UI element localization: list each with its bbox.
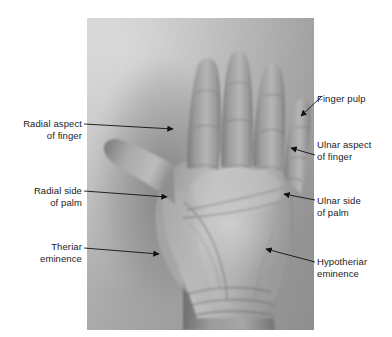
label-radial-side-of-palm: Radial side of palm (6, 185, 82, 208)
label-radial-aspect-of-finger: Radial aspect of finger (6, 118, 82, 141)
label-hypotheriar-eminence: Hypotheriar eminence (317, 256, 392, 279)
hand-illustration (87, 18, 314, 330)
label-ulnar-aspect-of-finger: Ulnar aspect of finger (317, 139, 391, 162)
label-ulnar-side-of-palm: Ulnar side of palm (317, 195, 391, 218)
label-theriar-eminence: Theriar eminence (6, 241, 82, 264)
hand-photograph (87, 18, 314, 330)
label-finger-pulp: Finger pulp (317, 93, 391, 105)
anatomy-figure: Radial aspect of finger Radial side of p… (0, 0, 392, 337)
